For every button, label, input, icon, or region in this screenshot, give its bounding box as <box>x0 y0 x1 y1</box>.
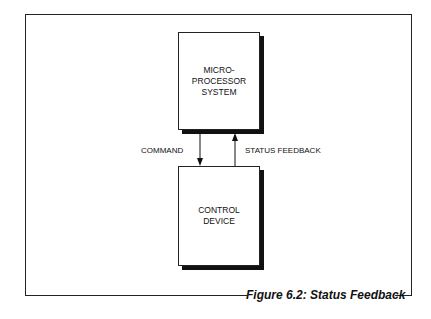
arrows-layer <box>0 0 431 319</box>
command-arrow-icon <box>197 134 203 166</box>
status-feedback-arrow-icon <box>232 133 238 166</box>
command-label: COMMAND <box>141 146 183 155</box>
status-feedback-label: STATUS FEEDBACK <box>245 146 321 155</box>
